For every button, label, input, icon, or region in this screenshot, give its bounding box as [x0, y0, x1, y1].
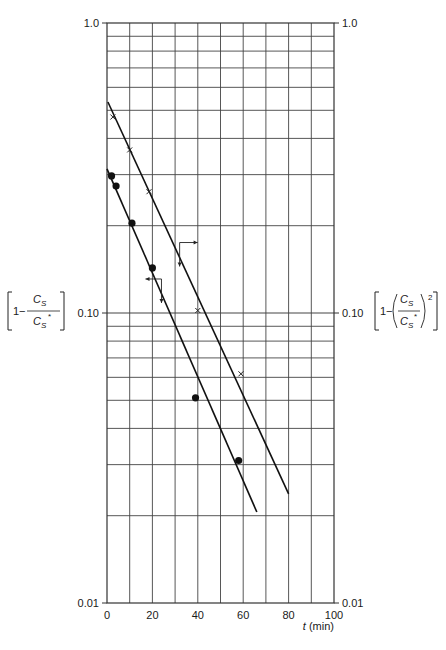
semi-log-chart: 0204060801001.00.100.011.00.100.01 t (mi… [0, 0, 446, 650]
fit-line [108, 102, 289, 494]
axis-reading-arrow [178, 241, 198, 267]
svg-text:S: S [41, 299, 47, 308]
svg-text:*: * [48, 312, 51, 321]
x-tick-label: 20 [146, 609, 158, 621]
grid-lines [107, 23, 334, 603]
y-tick-label-right: 0.01 [342, 597, 363, 609]
right-axis-label: 1− C S C S * 2 [375, 292, 437, 330]
svg-text:1−: 1− [13, 305, 26, 317]
left-axis-label: 1− C S C S * [8, 292, 64, 330]
axis-reading-arrow [145, 277, 163, 303]
arrow-head-horizontal [194, 241, 198, 245]
x-tick-label: 0 [104, 609, 110, 621]
svg-text:C: C [33, 315, 41, 327]
svg-text:C: C [33, 293, 41, 305]
y-tick-label-right: 1.0 [342, 17, 357, 29]
x-tick-label: 60 [237, 609, 249, 621]
data-point-circle [112, 182, 119, 189]
x-axis-label: t (min) [303, 620, 334, 632]
data-point-circle [149, 264, 156, 271]
annotations [145, 241, 197, 303]
y-tick-label-right: 0.10 [342, 307, 363, 319]
svg-text:C: C [400, 293, 408, 305]
arrow-head-vertical [159, 299, 163, 303]
data-point-circle [108, 172, 115, 179]
y-tick-label-left: 0.10 [78, 307, 99, 319]
svg-text:S: S [408, 321, 414, 330]
svg-text:C: C [400, 315, 408, 327]
svg-text:2: 2 [428, 293, 433, 302]
data-point-circle [128, 220, 135, 227]
x-tick-label: 40 [192, 609, 204, 621]
y-tick-label-left: 1.0 [84, 17, 99, 29]
svg-text:*: * [414, 312, 417, 321]
arrow-head-vertical [178, 263, 182, 267]
data-point-circle [192, 394, 199, 401]
svg-text:S: S [408, 299, 414, 308]
data-points [108, 115, 243, 465]
svg-text:S: S [41, 321, 47, 330]
svg-text:1−: 1− [380, 305, 393, 317]
arrow-head-horizontal [145, 277, 149, 281]
y-tick-label-left: 0.01 [78, 597, 99, 609]
x-tick-label: 80 [282, 609, 294, 621]
data-point-cross [238, 371, 243, 376]
data-point-circle [235, 457, 242, 464]
